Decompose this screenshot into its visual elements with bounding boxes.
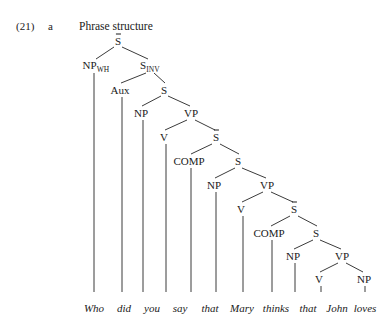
- tree-node-aux: Aux: [111, 85, 130, 96]
- tree-node-np: NP: [207, 180, 221, 191]
- tree-branch: [168, 96, 190, 106]
- node-label: NP: [286, 250, 300, 262]
- tree-node-s: S: [161, 85, 167, 96]
- tree-node-np: NP: [134, 108, 148, 119]
- tree-node-vp: VP: [184, 108, 198, 119]
- tree-node-s-inv: SINV: [140, 60, 160, 72]
- node-label: Aux: [111, 84, 130, 96]
- terminal-word: Who: [84, 303, 104, 314]
- phrase-structure-figure: (21) a Phrase structure SNPWHSINVAuxSNPV…: [0, 0, 385, 323]
- tree-branch: [220, 144, 239, 154]
- tree-branch: [346, 263, 363, 272]
- terminal-word: that: [299, 303, 316, 314]
- terminal-word: say: [173, 303, 188, 314]
- tree-branch: [165, 120, 187, 130]
- tree-node-s: S: [213, 132, 219, 143]
- tree-branch: [242, 168, 266, 178]
- terminal-word: loves: [354, 303, 377, 314]
- tree-branch: [121, 73, 146, 83]
- tree-node-v: V: [315, 274, 323, 285]
- tree-branch: [215, 168, 235, 178]
- node-label: NP: [357, 273, 371, 285]
- tree-node-s: S: [115, 36, 121, 47]
- node-label: VP: [335, 250, 349, 262]
- terminal-word: you: [144, 303, 160, 314]
- node-label: VP: [184, 107, 198, 119]
- terminal-word: John: [326, 303, 347, 314]
- tree-node-np: NP: [286, 251, 300, 262]
- node-label: S: [291, 204, 297, 215]
- tree-node-vp: VP: [260, 180, 274, 191]
- tree-node-s: S: [313, 228, 319, 239]
- tree-node-v: V: [237, 204, 245, 215]
- node-label: VP: [260, 179, 274, 191]
- node-label: V: [315, 273, 323, 285]
- terminal-word: did: [117, 303, 131, 314]
- node-label: S: [161, 84, 167, 96]
- node-subscript: INV: [146, 65, 160, 74]
- node-label: NP: [134, 107, 148, 119]
- terminal-word: thinks: [263, 303, 289, 314]
- node-label: V: [160, 131, 168, 143]
- branch-lines: [96, 47, 363, 272]
- tree-branch: [154, 73, 165, 83]
- tree-node-comp: COMP: [253, 228, 284, 239]
- node-label: NP: [83, 59, 97, 71]
- tree-branch: [320, 240, 341, 249]
- tree-branch: [195, 120, 215, 130]
- node-label: COMP: [253, 227, 284, 239]
- tree-node-np-wh: NPWH: [83, 60, 110, 72]
- tree-branch: [242, 192, 263, 202]
- tree-branch: [142, 96, 161, 106]
- tree-branch: [298, 216, 317, 226]
- tree-branch: [294, 240, 313, 249]
- node-label: NP: [207, 179, 221, 191]
- tree-branch: [191, 144, 212, 154]
- node-label: S: [313, 227, 319, 239]
- tree-node-vp: VP: [335, 251, 349, 262]
- node-label: S: [235, 155, 241, 167]
- tree-node-s: S: [235, 156, 241, 167]
- tree-node-comp: COMP: [173, 156, 204, 167]
- tree-branch: [271, 216, 290, 226]
- node-label: S: [213, 132, 219, 143]
- tree-branch: [122, 47, 148, 59]
- node-label: S: [115, 36, 121, 47]
- tree-node-s: S: [291, 204, 297, 215]
- tree-node-v: V: [160, 132, 168, 143]
- tree-node-np: NP: [357, 274, 371, 285]
- terminal-word: that: [201, 303, 218, 314]
- node-label: COMP: [173, 155, 204, 167]
- terminal-word: Mary: [230, 303, 254, 314]
- node-label: V: [237, 203, 245, 215]
- tree-branch: [96, 47, 114, 59]
- node-subscript: WH: [97, 65, 110, 74]
- tree-branch: [320, 263, 338, 272]
- tree-branch: [271, 192, 293, 202]
